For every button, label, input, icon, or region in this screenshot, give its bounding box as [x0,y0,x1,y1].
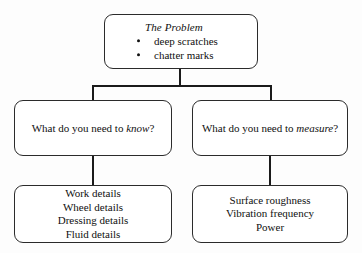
detail-line: Fluid details [66,228,121,242]
connector-drop-to-know [92,85,94,101]
node-problem: The Problem deep scratches chatter marks [104,14,258,69]
question-emphasis: measure [296,122,333,134]
question-prefix: What do you need to [202,122,296,134]
node-problem-bullet-list: deep scratches chatter marks [133,34,218,62]
detail-line: Power [256,221,284,235]
detail-line: Wheel details [63,201,123,215]
connector-know-to-know-details [92,156,94,186]
detail-line: Surface roughness [230,194,311,208]
detail-line: Vibration frequency [226,207,314,221]
list-item-label: chatter marks [154,49,214,61]
node-know-details: Work details Wheel details Dressing deta… [14,185,172,243]
detail-line: Dressing details [58,214,129,228]
question-suffix: ? [333,122,338,134]
list-item: chatter marks [133,48,218,62]
node-what-to-know-label: What do you need to know? [32,122,155,134]
bullet-dot-icon [137,39,140,42]
node-what-to-know: What do you need to know? [14,100,172,156]
list-item: deep scratches [133,34,218,48]
detail-line: Work details [65,187,121,201]
connector-horizontal-split-bar [92,85,272,87]
question-emphasis: know [126,122,149,134]
node-what-to-measure-label: What do you need to measure? [202,122,338,134]
list-item-label: deep scratches [154,35,218,47]
node-measure-details: Surface roughness Vibration frequency Po… [192,185,348,243]
connector-measure-to-measure-details [269,156,271,186]
question-suffix: ? [149,122,154,134]
flowchart-diagram: The Problem deep scratches chatter marks… [0,0,362,253]
bullet-dot-icon [137,53,140,56]
node-problem-heading: The Problem [145,21,203,34]
connector-drop-to-measure [270,85,272,101]
node-what-to-measure: What do you need to measure? [192,100,348,156]
question-prefix: What do you need to [32,122,126,134]
